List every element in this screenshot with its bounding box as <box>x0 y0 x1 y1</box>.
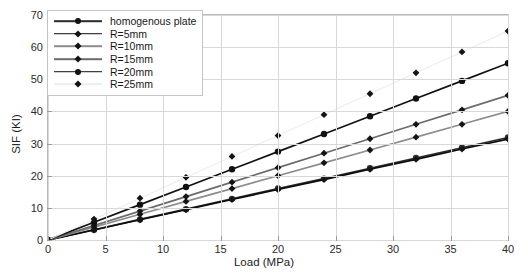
y-axis-title: SIF (KI) <box>10 94 22 174</box>
data-point <box>367 135 374 142</box>
data-point <box>229 185 236 192</box>
legend-swatch <box>52 15 104 27</box>
data-point <box>183 184 189 190</box>
legend-item[interactable]: R=20mm <box>52 65 196 78</box>
data-point <box>367 90 374 97</box>
gridline-horizontal <box>48 176 508 177</box>
legend-label: homogenous plate <box>104 15 196 27</box>
data-point <box>413 134 420 141</box>
legend-label: R=15mm <box>104 53 153 65</box>
data-point <box>413 121 420 128</box>
x-tick-label: 25 <box>329 243 341 255</box>
legend-diamond-marker-icon <box>74 43 81 50</box>
data-point <box>321 150 328 157</box>
x-tick-label: 20 <box>272 243 284 255</box>
x-tick-mark <box>221 236 222 241</box>
y-tick-label: 60 <box>3 41 43 53</box>
x-tick-label: 35 <box>444 243 456 255</box>
data-point <box>229 153 236 160</box>
x-tick-mark <box>163 236 164 241</box>
legend-label: R=20mm <box>104 66 153 78</box>
data-point <box>413 95 419 101</box>
x-tick-label: 0 <box>45 243 51 255</box>
chart-figure: 010203040506070 0510152025303540 SIF (KI… <box>0 0 528 274</box>
x-tick-mark <box>393 236 394 241</box>
legend-item[interactable]: homogenous plate <box>52 15 196 28</box>
legend-item[interactable]: R=5mm <box>52 28 196 41</box>
legend-diamond-marker-icon <box>74 81 81 88</box>
y-tick-label: 10 <box>3 202 43 214</box>
y-tick-label: 70 <box>3 9 43 21</box>
y-tick-mark <box>47 144 52 145</box>
legend-circle-marker-icon <box>75 18 81 24</box>
gridline-horizontal <box>48 208 508 209</box>
gridline-vertical <box>508 15 509 240</box>
x-axis-title: Load (MPa) <box>0 256 528 268</box>
data-point <box>367 113 373 119</box>
legend-item[interactable]: R=15mm <box>52 53 196 66</box>
x-tick-mark <box>508 236 509 241</box>
gridline-vertical <box>393 15 394 240</box>
x-tick-mark <box>451 236 452 241</box>
data-point <box>321 131 327 137</box>
legend-diamond-marker-icon <box>74 56 81 63</box>
y-tick-mark <box>47 111 52 112</box>
gridline-vertical <box>336 15 337 240</box>
x-tick-mark <box>48 236 49 241</box>
y-tick-label: 50 <box>3 73 43 85</box>
gridline-vertical <box>451 15 452 240</box>
x-tick-label: 30 <box>387 243 399 255</box>
legend-swatch <box>52 28 104 40</box>
legend-swatch <box>52 53 104 65</box>
legend-label: R=10mm <box>104 40 153 52</box>
data-point <box>413 69 420 76</box>
legend-item[interactable]: R=10mm <box>52 40 196 53</box>
x-tick-label: 10 <box>157 243 169 255</box>
data-point <box>229 166 235 172</box>
legend-swatch <box>52 78 104 90</box>
gridline-horizontal <box>48 111 508 112</box>
y-tick-label: 30 <box>3 138 43 150</box>
data-point <box>459 49 466 56</box>
y-tick-label: 20 <box>3 170 43 182</box>
gridline-vertical <box>221 15 222 240</box>
data-point <box>367 147 374 154</box>
x-tick-mark <box>278 236 279 241</box>
legend-item[interactable]: R=25mm <box>52 78 196 91</box>
legend-diamond-marker-icon <box>74 30 81 37</box>
chart-legend: homogenous plateR=5mmR=10mmR=15mmR=20mmR… <box>47 10 203 96</box>
legend-swatch <box>52 66 104 78</box>
data-point <box>183 193 190 200</box>
legend-circle-marker-icon <box>75 69 81 75</box>
legend-label: R=25mm <box>104 78 153 90</box>
y-tick-label: 40 <box>3 105 43 117</box>
y-tick-mark <box>47 208 52 209</box>
x-tick-label: 15 <box>214 243 226 255</box>
legend-swatch <box>52 40 104 52</box>
data-point <box>459 121 466 128</box>
data-point <box>321 159 328 166</box>
data-point <box>137 195 144 202</box>
x-tick-mark <box>336 236 337 241</box>
x-tick-label: 40 <box>502 243 514 255</box>
gridline-horizontal <box>48 144 508 145</box>
data-point <box>229 179 236 186</box>
y-tick-mark <box>47 176 52 177</box>
x-tick-mark <box>106 236 107 241</box>
legend-label: R=5mm <box>104 28 147 40</box>
gridline-vertical <box>278 15 279 240</box>
x-tick-label: 5 <box>102 243 108 255</box>
